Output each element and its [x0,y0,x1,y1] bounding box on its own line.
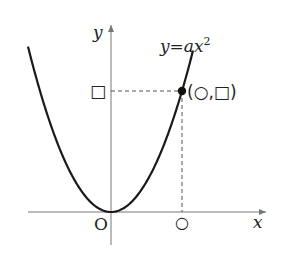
point-on-curve [178,87,186,95]
x-value-placeholder-label: ○ [175,213,189,232]
parabola-diagram: y x O y=ax2 (○,□) □ ○ [0,0,281,259]
origin-label: O [94,214,108,234]
y-axis-label: y [92,22,103,42]
point-coordinate-label: (○,□) [187,82,237,102]
equation-label: y=ax2 [159,35,211,56]
x-axis-label: x [253,212,263,232]
y-value-placeholder-label: □ [90,81,106,101]
equation-text: y=ax [159,36,204,56]
equation-exponent: 2 [204,35,211,48]
